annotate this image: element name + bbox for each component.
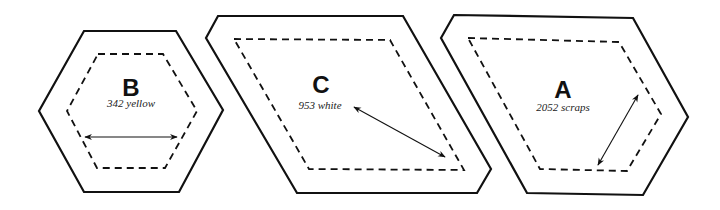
piece-caption-b: 342 yellow [106,97,156,109]
piece-letter-a: A [554,76,571,103]
quilt-template-diagram: B 342 yellow C 953 white A 2052 scraps [0,0,720,210]
cutting-line-c [206,16,491,193]
piece-caption-c: 953 white [298,99,341,111]
grain-arrow-icon-c [354,107,445,157]
template-piece-c: C 953 white [206,16,491,193]
seam-line-c [234,39,464,170]
template-piece-a: A 2052 scraps [441,15,688,195]
piece-letter-c: C [312,71,329,98]
piece-caption-a: 2052 scraps [536,101,589,113]
seam-line-b [67,54,197,168]
grain-arrow-icon-a [598,95,638,165]
template-piece-b: B 342 yellow [39,31,223,192]
